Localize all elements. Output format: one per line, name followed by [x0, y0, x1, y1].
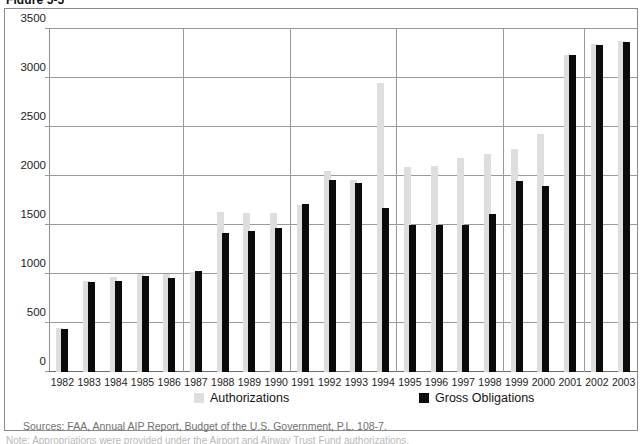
- bar-pair: [431, 29, 443, 372]
- bar-gross-obligations: [222, 233, 229, 372]
- x-tick-label: 1986: [158, 376, 181, 388]
- bar-pair: [618, 29, 630, 372]
- bar-group: 1995: [396, 29, 423, 372]
- bar-group: 1996: [423, 29, 450, 372]
- x-tick-label: 1985: [131, 376, 154, 388]
- legend-label: Gross Obligations: [435, 391, 534, 405]
- x-tick-label: 1987: [184, 376, 207, 388]
- figure-container: 0500100015002000250030003500 19821983198…: [4, 8, 638, 431]
- bar-pair: [163, 29, 175, 372]
- bar-group: 1986: [156, 29, 183, 372]
- bar-gross-obligations: [142, 276, 149, 372]
- bar-gross-obligations: [623, 42, 630, 372]
- x-tick-label: 2001: [558, 376, 581, 388]
- bar-gross-obligations: [409, 225, 416, 372]
- bar-group: 1991: [290, 29, 317, 372]
- bar-group: 1984: [102, 29, 129, 372]
- bar-pair: [404, 29, 416, 372]
- bar-pair: [110, 29, 122, 372]
- x-tick-label: 1984: [104, 376, 127, 388]
- x-tick-label: 1999: [505, 376, 528, 388]
- bar-gross-obligations: [516, 181, 523, 372]
- footnote-cropped: Note: Appropriations were provided under…: [6, 435, 636, 444]
- x-tick-label: 1988: [211, 376, 234, 388]
- x-tick-label: 2000: [532, 376, 555, 388]
- bar-gross-obligations: [329, 180, 336, 372]
- bar-pair: [190, 29, 202, 372]
- y-tick-label: 1000: [20, 257, 46, 269]
- bar-group: 1987: [183, 29, 210, 372]
- x-tick-label: 1993: [345, 376, 368, 388]
- x-tick-label: 1998: [478, 376, 501, 388]
- x-tick-label: 2003: [612, 376, 635, 388]
- bar-pair: [511, 29, 523, 372]
- chart-legend: AuthorizationsGross Obligations: [49, 391, 637, 409]
- sources-note: Sources: FAA, Annual AIP Report, Budget …: [23, 420, 387, 432]
- x-tick-label: 1990: [264, 376, 287, 388]
- bar-group: 2002: [584, 29, 611, 372]
- bar-group: 2000: [530, 29, 557, 372]
- bar-gross-obligations: [489, 214, 496, 372]
- x-tick-label: 1992: [318, 376, 341, 388]
- bar-gross-obligations: [115, 281, 122, 372]
- bar-pair: [217, 29, 229, 372]
- bar-gross-obligations: [596, 45, 603, 372]
- bar-group: 1988: [209, 29, 236, 372]
- y-tick-label: 3000: [20, 61, 46, 73]
- legend-label: Authorizations: [210, 391, 289, 405]
- bar-group: 1982: [49, 29, 76, 372]
- x-tick-label: 1983: [77, 376, 100, 388]
- bar-group: 1999: [503, 29, 530, 372]
- legend-swatch-gross-obligations: [419, 393, 429, 403]
- bar-pair: [324, 29, 336, 372]
- bar-pair: [457, 29, 469, 372]
- bar-gross-obligations: [462, 225, 469, 372]
- x-tick-label: 1989: [238, 376, 261, 388]
- bar-pair: [83, 29, 95, 372]
- bar-group: 2001: [557, 29, 584, 372]
- x-tick-label: 1982: [51, 376, 74, 388]
- legend-entry-gross-obligations: Gross Obligations: [419, 391, 534, 405]
- x-tick-label: 1991: [291, 376, 314, 388]
- chart-plot-area: 0500100015002000250030003500 19821983198…: [49, 29, 637, 372]
- bar-pair: [297, 29, 309, 372]
- bar-group: 1985: [129, 29, 156, 372]
- bar-group: 1998: [477, 29, 504, 372]
- bar-gross-obligations: [569, 55, 576, 372]
- y-tick-label: 500: [27, 306, 46, 318]
- bar-pair: [270, 29, 282, 372]
- bar-pair: [56, 29, 68, 372]
- bar-pair: [564, 29, 576, 372]
- bar-gross-obligations: [61, 329, 68, 372]
- bar-gross-obligations: [302, 204, 309, 372]
- bar-pair: [243, 29, 255, 372]
- bar-group: 2003: [610, 29, 637, 372]
- x-tick-label: 1994: [371, 376, 394, 388]
- bar-pair: [350, 29, 362, 372]
- bar-gross-obligations: [382, 208, 389, 372]
- bar-gross-obligations: [88, 282, 95, 372]
- bar-group: 1990: [263, 29, 290, 372]
- bar-group: 1983: [76, 29, 103, 372]
- bar-gross-obligations: [436, 225, 443, 372]
- bar-group: 1997: [450, 29, 477, 372]
- x-tick-label: 1997: [452, 376, 475, 388]
- bar-pair: [377, 29, 389, 372]
- bar-gross-obligations: [168, 278, 175, 372]
- bar-gross-obligations: [248, 231, 255, 372]
- bar-group: 1992: [316, 29, 343, 372]
- bar-pair: [484, 29, 496, 372]
- y-tick-label: 1500: [20, 208, 46, 220]
- y-tick-label: 0: [40, 355, 46, 367]
- bar-gross-obligations: [275, 228, 282, 372]
- bar-group: 1989: [236, 29, 263, 372]
- bar-pair: [537, 29, 549, 372]
- y-tick-label: 2000: [20, 159, 46, 171]
- bar-gross-obligations: [542, 186, 549, 372]
- x-tick-label: 1996: [425, 376, 448, 388]
- bar-group: 1994: [370, 29, 397, 372]
- bar-pair: [591, 29, 603, 372]
- x-tick-label: 1995: [398, 376, 421, 388]
- bar-pair: [137, 29, 149, 372]
- legend-entry-authorizations: Authorizations: [194, 391, 289, 405]
